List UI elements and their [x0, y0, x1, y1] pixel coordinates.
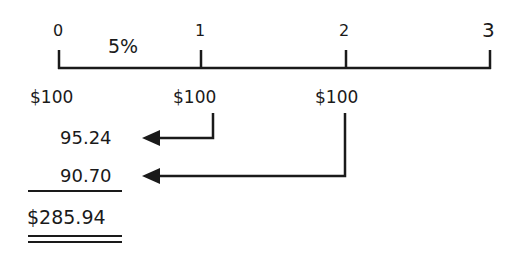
period-label-1: 1	[195, 23, 205, 39]
present-value-total: $285.94	[27, 208, 106, 227]
arrowhead-left-icon	[142, 168, 160, 184]
period-label-2: 2	[339, 23, 349, 39]
interest-rate-label: 5%	[108, 37, 138, 56]
cash-flow-1: $100	[173, 89, 216, 106]
present-value-2: 90.70	[60, 167, 112, 185]
cash-flow-2: $100	[315, 89, 358, 106]
discount-arrow-1	[158, 113, 213, 138]
cash-flow-0: $100	[30, 89, 73, 106]
period-label-0: 0	[53, 23, 63, 39]
period-label-3: 3	[482, 20, 495, 40]
discount-arrow-2	[158, 113, 345, 176]
present-value-1: 95.24	[60, 129, 112, 147]
arrowhead-left-icon	[142, 130, 160, 146]
